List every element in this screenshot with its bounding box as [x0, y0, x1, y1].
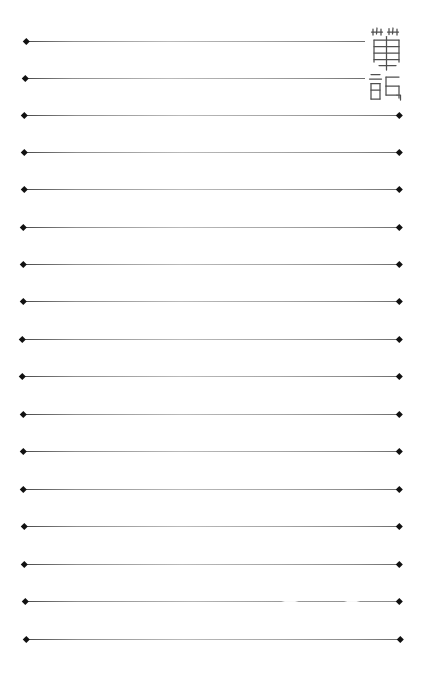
ruled-line — [24, 520, 399, 534]
ruled-line — [24, 183, 399, 197]
ruled-line — [23, 221, 399, 235]
line-end-diamond-icon — [396, 298, 402, 304]
ruled-line-stroke — [26, 639, 400, 640]
ruled-line-stroke — [25, 601, 399, 602]
ruled-line-stroke — [24, 115, 399, 116]
ruled-line — [23, 258, 399, 272]
ruled-line — [23, 295, 399, 309]
line-end-diamond-icon — [396, 261, 402, 267]
line-end-diamond-icon — [396, 523, 402, 529]
line-end-diamond-icon — [396, 186, 402, 192]
line-start-diamond-icon — [23, 636, 29, 642]
ruled-line-stroke — [23, 414, 399, 415]
line-start-diamond-icon — [20, 448, 26, 454]
ruled-line-stroke — [23, 227, 399, 228]
line-start-diamond-icon — [19, 336, 25, 342]
line-start-diamond-icon — [20, 411, 26, 417]
line-end-diamond-icon — [396, 486, 402, 492]
line-start-diamond-icon — [21, 149, 27, 155]
ruled-line-stroke — [26, 41, 365, 42]
line-start-diamond-icon — [23, 38, 29, 44]
character-bi-icon — [372, 28, 400, 70]
line-end-diamond-icon — [396, 149, 402, 155]
ruled-line-stroke — [23, 451, 399, 452]
ruled-line — [24, 558, 399, 572]
ruled-line — [23, 445, 399, 459]
line-start-diamond-icon — [20, 486, 26, 492]
ruled-line — [25, 595, 399, 609]
ruled-line — [22, 333, 399, 347]
line-end-diamond-icon — [396, 373, 402, 379]
line-end-diamond-icon — [396, 448, 402, 454]
ruled-line-stroke — [23, 264, 399, 265]
title-stamp-bi-ji — [366, 20, 414, 104]
ruled-line-stroke — [22, 376, 399, 377]
line-end-diamond-icon — [396, 112, 402, 118]
line-end-diamond-icon — [396, 224, 402, 230]
ruled-line — [26, 633, 400, 647]
ruled-line-stroke — [23, 489, 399, 490]
line-start-diamond-icon — [20, 224, 26, 230]
line-start-diamond-icon — [19, 373, 25, 379]
line-start-diamond-icon — [21, 561, 27, 567]
line-start-diamond-icon — [21, 112, 27, 118]
ruled-line — [25, 72, 365, 86]
ruled-line-stroke — [23, 301, 399, 302]
line-start-diamond-icon — [20, 298, 26, 304]
line-end-diamond-icon — [396, 336, 402, 342]
ruled-line-stroke — [24, 189, 399, 190]
ruled-line-stroke — [25, 78, 365, 79]
line-end-diamond-icon — [396, 561, 402, 567]
ruled-line-stroke — [24, 564, 399, 565]
line-start-diamond-icon — [22, 598, 28, 604]
line-end-diamond-icon — [396, 598, 402, 604]
character-ji-icon — [370, 75, 401, 101]
line-end-diamond-icon — [396, 411, 402, 417]
line-start-diamond-icon — [21, 523, 27, 529]
line-end-diamond-icon — [397, 636, 403, 642]
ruled-line-stroke — [24, 526, 399, 527]
ruled-line — [23, 408, 399, 422]
ruled-line-stroke — [22, 339, 399, 340]
line-start-diamond-icon — [20, 261, 26, 267]
ruled-line — [22, 370, 399, 384]
ruled-line — [24, 146, 399, 160]
ruled-line — [23, 483, 399, 497]
line-start-diamond-icon — [21, 186, 27, 192]
ruled-line-stroke — [24, 152, 399, 153]
line-start-diamond-icon — [22, 75, 28, 81]
ruled-line — [26, 35, 365, 49]
notebook-page — [0, 0, 421, 680]
ruled-line — [24, 109, 399, 123]
